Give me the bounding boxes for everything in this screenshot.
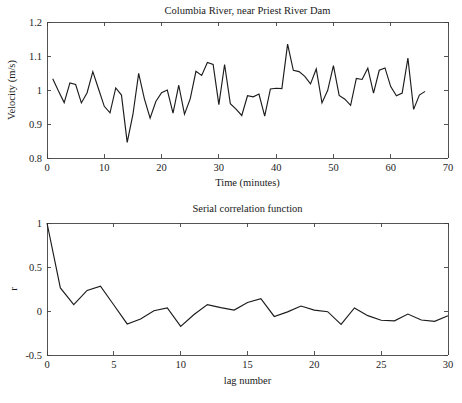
serial-correlation-xticklabel: 5 [111, 359, 116, 370]
serial-correlation-xticklabel: 20 [309, 359, 320, 370]
velocity-chart-panel: Columbia River, near Priest River Dam010… [0, 0, 462, 200]
velocity-timeseries-series-line [53, 44, 425, 142]
velocity-timeseries-xticklabel: 0 [44, 162, 49, 173]
velocity-timeseries-xticklabel: 20 [156, 162, 167, 173]
serial-correlation-xticklabel: 25 [376, 359, 387, 370]
velocity-timeseries-yticklabel: 1.1 [29, 51, 42, 62]
serial-correlation-series-line [47, 223, 448, 326]
serial-correlation-plot-frame [47, 223, 448, 355]
serial-correlation-xticklabel: 0 [44, 359, 49, 370]
velocity-timeseries-xlabel: Time (minutes) [215, 177, 280, 189]
acf-chart-svg: Serial correlation function051015202530-… [0, 195, 462, 403]
velocity-timeseries-xticklabel: 30 [214, 162, 225, 173]
velocity-timeseries-yticklabel: 1 [37, 85, 42, 96]
velocity-timeseries-xticklabel: 40 [271, 162, 282, 173]
velocity-timeseries-yticklabel: 0.9 [29, 119, 42, 130]
serial-correlation-xticklabel: 15 [242, 359, 253, 370]
velocity-timeseries-title: Columbia River, near Priest River Dam [165, 5, 331, 16]
acf-chart-panel: Serial correlation function051015202530-… [0, 195, 462, 403]
velocity-timeseries-xticklabel: 10 [99, 162, 110, 173]
velocity-timeseries-yticklabel: 1.2 [29, 17, 42, 28]
velocity-timeseries-yticklabel: 0.8 [29, 153, 42, 164]
velocity-timeseries-xticklabel: 60 [385, 162, 396, 173]
serial-correlation-yticklabel: 0.5 [29, 262, 42, 273]
serial-correlation-ylabel: r [8, 287, 19, 291]
velocity-chart-svg: Columbia River, near Priest River Dam010… [0, 0, 462, 200]
velocity-timeseries-plot-frame [47, 22, 448, 158]
serial-correlation-xticklabel: 10 [175, 359, 186, 370]
serial-correlation-yticklabel: -0.5 [25, 350, 42, 361]
figure-container: Columbia River, near Priest River Dam010… [0, 0, 462, 403]
serial-correlation-xticklabel: 30 [443, 359, 454, 370]
serial-correlation-xlabel: lag number [224, 375, 272, 386]
velocity-timeseries-xticklabel: 50 [328, 162, 339, 173]
serial-correlation-yticklabel: 0 [37, 306, 42, 317]
serial-correlation-yticklabel: 1 [37, 218, 42, 229]
serial-correlation-title: Serial correlation function [192, 203, 303, 214]
velocity-timeseries-ylabel: Velocity (m/s) [6, 60, 18, 120]
velocity-timeseries-xticklabel: 70 [443, 162, 454, 173]
